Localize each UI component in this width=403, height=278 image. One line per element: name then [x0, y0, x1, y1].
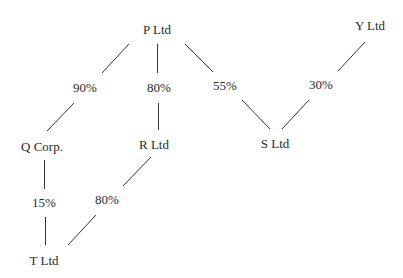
- holding-y-s-percent: 30%: [309, 78, 333, 91]
- line-80-to-t: [68, 215, 96, 245]
- entity-p-ltd: P Ltd: [143, 23, 171, 36]
- line-r-to-80: [123, 157, 151, 186]
- entity-s-ltd: S Ltd: [261, 137, 290, 150]
- entity-t-ltd: T Ltd: [29, 254, 58, 267]
- line-p-to-55: [185, 44, 213, 72]
- entity-q-corp: Q Corp.: [21, 140, 63, 153]
- holding-p-s-percent: 55%: [213, 79, 237, 92]
- line-y-to-30: [338, 42, 365, 71]
- line-55-to-s: [242, 100, 270, 129]
- entity-r-ltd: R Ltd: [139, 138, 169, 151]
- line-30-to-s: [282, 100, 309, 129]
- holding-r-t-percent: 80%: [95, 193, 119, 206]
- holding-p-r-percent: 80%: [147, 81, 171, 94]
- ownership-diagram: P Ltd Y Ltd Q Corp. R Ltd S Ltd T Ltd 90…: [0, 0, 403, 278]
- holding-p-q-percent: 90%: [73, 81, 97, 94]
- line-90-to-q: [47, 103, 74, 131]
- holding-q-t-percent: 15%: [32, 196, 56, 209]
- line-p-to-90: [102, 44, 129, 73]
- entity-y-ltd: Y Ltd: [355, 19, 385, 32]
